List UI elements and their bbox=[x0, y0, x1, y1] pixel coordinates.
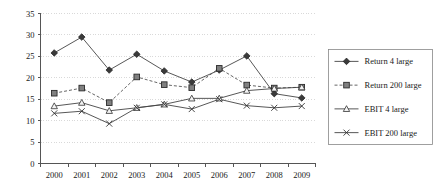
series-line bbox=[54, 68, 302, 102]
data-point-square bbox=[79, 85, 85, 91]
series-line bbox=[54, 99, 302, 123]
series-markers bbox=[51, 66, 304, 106]
line-chart: 05101520253035 2000200120022003200420052… bbox=[0, 0, 440, 193]
y-axis-tick-label: 0 bbox=[30, 159, 34, 169]
data-point-diamond bbox=[161, 68, 168, 75]
x-axis-tick-label: 2008 bbox=[266, 170, 283, 180]
data-point-diamond bbox=[51, 50, 58, 57]
data-point-diamond bbox=[243, 53, 250, 60]
data-point-square bbox=[106, 100, 112, 106]
x-axis-tick-label: 2006 bbox=[211, 170, 228, 180]
x-axis-tick-label: 2004 bbox=[156, 170, 174, 180]
data-point-square bbox=[51, 90, 57, 96]
data-point-diamond bbox=[298, 95, 305, 102]
x-axis-tick-label: 2001 bbox=[73, 170, 90, 180]
data-point-triangle bbox=[79, 99, 85, 105]
series-markers bbox=[51, 34, 305, 101]
x-axis-tick-label: 2009 bbox=[293, 170, 310, 180]
x-axis-tick-label: 2005 bbox=[183, 170, 200, 180]
y-axis-tick-label: 35 bbox=[26, 9, 35, 19]
y-axis-tick-label: 15 bbox=[26, 94, 35, 104]
data-point-square bbox=[216, 66, 222, 72]
series-layer bbox=[51, 34, 305, 127]
chart-legend: Return 4 largeReturn 200 largeEBIT 4 lar… bbox=[329, 50, 433, 145]
legend-label: Return 200 large bbox=[365, 80, 422, 90]
series-markers bbox=[51, 96, 305, 126]
x-axis-tick-label: 2007 bbox=[238, 170, 255, 180]
legend-label: Return 4 large bbox=[365, 56, 414, 66]
series-markers bbox=[51, 84, 305, 113]
data-point-square bbox=[344, 82, 350, 88]
y-axis-tick-label: 30 bbox=[26, 30, 35, 40]
x-axis-tick-label: 2003 bbox=[128, 170, 145, 180]
chart-container: 05101520253035 2000200120022003200420052… bbox=[0, 0, 440, 193]
x-axis-tick-labels: 2000200120022003200420052006200720082009 bbox=[46, 170, 311, 180]
y-axis-tick-labels: 05101520253035 bbox=[26, 9, 35, 169]
data-point-x bbox=[106, 121, 112, 127]
y-axis-tick-label: 20 bbox=[26, 73, 35, 83]
legend-label: EBIT 4 large bbox=[365, 104, 409, 114]
legend-item[interactable]: Return 4 large bbox=[335, 56, 414, 66]
x-axis-tick-label: 2002 bbox=[101, 170, 118, 180]
y-axis-tick-label: 5 bbox=[30, 137, 34, 147]
x-axis-tick-label: 2000 bbox=[46, 170, 63, 180]
data-point-square bbox=[189, 85, 195, 91]
data-point-square bbox=[134, 74, 140, 80]
y-axis-tick-label: 25 bbox=[26, 51, 35, 61]
data-point-square bbox=[161, 82, 167, 88]
y-axis-tick-label: 10 bbox=[26, 116, 35, 126]
legend-label: EBIT 200 large bbox=[365, 128, 418, 138]
data-point-diamond bbox=[188, 79, 195, 86]
